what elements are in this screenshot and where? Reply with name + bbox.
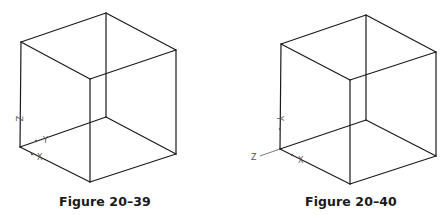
- cube-edge: [106, 13, 176, 50]
- cube-wireframe-drawing: Z Y X: [222, 0, 444, 215]
- cube-edge: [366, 15, 436, 52]
- axis-marker-icon: [279, 128, 281, 130]
- cube-edge: [20, 42, 21, 147]
- cube-edge: [90, 154, 176, 182]
- axis-marker-icon: [291, 154, 293, 156]
- cube-edge: [21, 42, 90, 79]
- y-axis-label: Y: [275, 115, 284, 121]
- cube-edge: [281, 44, 350, 80]
- z-axis-label: Z: [14, 116, 23, 122]
- z-axis-label: Z: [251, 153, 257, 162]
- figure-caption: Figure 20–39: [59, 194, 151, 209]
- cube-edge: [280, 149, 350, 184]
- cube-edge: [21, 13, 106, 42]
- x-axis-label: X: [298, 156, 304, 165]
- cube-edge: [280, 44, 281, 149]
- cube-edge: [350, 52, 436, 80]
- x-axis-label: X: [37, 153, 43, 162]
- cube-edge: [366, 120, 436, 156]
- cube-edge: [90, 50, 176, 79]
- ucs-axis-icon: Z Y X: [14, 116, 48, 162]
- cube-wireframe-drawing: Z Y X: [0, 0, 222, 215]
- cube-edge: [106, 117, 176, 154]
- cube-edge: [280, 120, 366, 149]
- axis-marker-icon: [31, 153, 33, 155]
- y-axis-label: Y: [42, 136, 48, 145]
- cube-edge: [350, 156, 436, 184]
- z-axis-line: [260, 149, 280, 156]
- cube-edge: [281, 15, 366, 44]
- cube-edge: [20, 117, 106, 147]
- figure-20-40: Z Y X Figure 20–40: [222, 0, 444, 215]
- figure-caption: Figure 20–40: [305, 194, 397, 209]
- cube-edge: [20, 147, 90, 182]
- figure-20-39: Z Y X Figure 20–39: [0, 0, 222, 215]
- axis-marker-icon: [35, 140, 37, 142]
